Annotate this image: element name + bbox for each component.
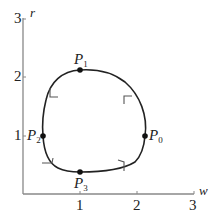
x-tick-3: 3 [189,198,197,213]
y-tick-2: 2 [14,69,22,84]
x-tick-2: 2 [133,198,141,213]
label-p1: P1 [74,52,88,69]
x-axis-label: w [199,184,208,197]
y-axis-label: r [30,6,35,19]
x-tick-1: 1 [76,198,84,213]
y-tick-3: 3 [14,11,22,26]
arrow-icon [124,96,132,104]
label-p2: P2 [27,128,41,145]
direction-arrows [42,88,132,171]
phase-diagram [0,0,221,224]
point-p3 [77,169,83,175]
y-tick-1: 1 [14,128,22,143]
arrow-icon [50,88,58,97]
points [40,67,148,175]
tick-marks [23,19,194,194]
point-p0 [142,133,148,139]
point-p2 [40,133,46,139]
label-p0: P0 [149,128,163,145]
label-p3: P3 [74,176,88,193]
arrow-icon [118,160,124,171]
closed-orbit-curve [43,70,146,172]
